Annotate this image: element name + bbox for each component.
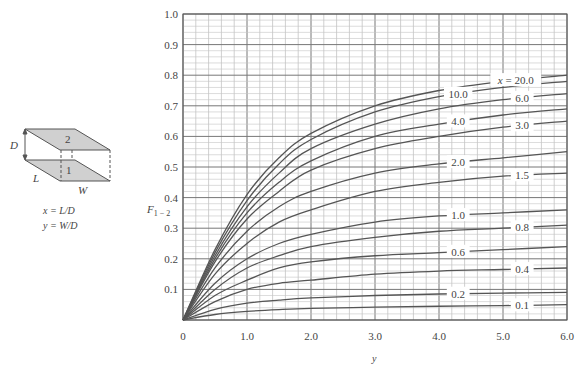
x-tick-label: 0 bbox=[180, 330, 186, 342]
diagram-label-plate-1: 1 bbox=[66, 164, 72, 176]
curve-label: x = 20.0 bbox=[497, 74, 534, 86]
curve-label: 4.0 bbox=[451, 115, 465, 127]
x-axis-title: y bbox=[372, 353, 376, 364]
diagram-label-d: D bbox=[10, 139, 18, 151]
curve-label: 10.0 bbox=[449, 88, 469, 100]
y-axis-title-sub: 1 − 2 bbox=[154, 209, 171, 218]
curve-label: 0.2 bbox=[451, 288, 465, 300]
y-tick-label: 0.6 bbox=[164, 130, 178, 142]
y-tick-label: 0.4 bbox=[164, 192, 178, 204]
diagram-label-l: L bbox=[33, 172, 39, 184]
diagram-label-w: W bbox=[78, 184, 87, 196]
x-tick-label: 6.0 bbox=[560, 330, 574, 342]
curve-label: 0.6 bbox=[451, 246, 465, 258]
y-axis-title-main: F bbox=[147, 203, 154, 215]
curve-label: 6.0 bbox=[515, 92, 529, 104]
curve-label: 0.1 bbox=[515, 299, 529, 311]
y-tick-label: 0.5 bbox=[164, 161, 178, 173]
y-tick-label: 0.8 bbox=[164, 69, 178, 81]
x-tick-label: 2.0 bbox=[304, 330, 318, 342]
curve-label: 0.8 bbox=[515, 221, 529, 233]
y-tick-label: 0.7 bbox=[164, 100, 178, 112]
y-tick-label: 0.3 bbox=[164, 222, 178, 234]
curve-label: 1.5 bbox=[515, 169, 529, 181]
y-tick-label: 0.2 bbox=[164, 253, 178, 265]
y-axis-title: F1 − 2 bbox=[147, 203, 170, 218]
x-tick-label: 4.0 bbox=[432, 330, 446, 342]
y-tick-label: 1.0 bbox=[164, 8, 178, 20]
curve-label: 2.0 bbox=[451, 156, 465, 168]
curve-label: 0.4 bbox=[515, 263, 529, 275]
diagram-label-plate-2: 2 bbox=[65, 133, 71, 145]
y-tick-label: 0.1 bbox=[164, 283, 178, 295]
y-tick-label: 0.9 bbox=[164, 39, 178, 51]
definition-y: y = W/D bbox=[43, 220, 78, 231]
definition-x: x = L/D bbox=[43, 205, 75, 216]
view-factor-chart: 0.10.20.30.40.50.60.70.80.91.001.02.03.0… bbox=[0, 0, 583, 373]
curve-label: 1.0 bbox=[451, 209, 465, 221]
x-tick-label: 3.0 bbox=[368, 330, 382, 342]
x-tick-label: 5.0 bbox=[496, 330, 510, 342]
x-tick-label: 1.0 bbox=[240, 330, 254, 342]
curve-label: 3.0 bbox=[515, 119, 529, 131]
